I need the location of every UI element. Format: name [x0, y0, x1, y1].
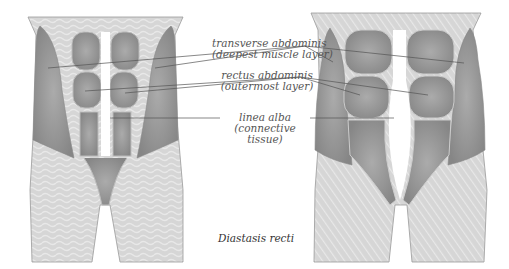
normal-abdomen-figure: [28, 17, 183, 262]
figure-caption: Diastasis recti: [218, 232, 294, 244]
label-rectus-line2: (outermost layer): [212, 81, 322, 92]
label-linea-alba: linea alba (connective tissue): [220, 112, 310, 145]
label-transverse-abdominis: transverse abdominis (deepest muscle lay…: [212, 38, 322, 60]
label-linea-line3: tissue): [220, 134, 310, 145]
label-transverse-line2: (deepest muscle layer): [212, 49, 322, 60]
diastasis-abdomen-figure: [311, 13, 487, 262]
label-rectus-abdominis: rectus abdominis (outermost layer): [212, 70, 322, 92]
